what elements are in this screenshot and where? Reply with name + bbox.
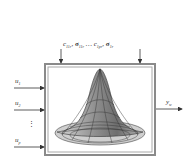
input-label-p: up (15, 137, 21, 145)
input-ellipsis: ⋮ (28, 121, 35, 128)
parameters-label: c11r, σ11r … c1pr, σ1r (63, 41, 113, 49)
diagram-canvas (0, 0, 196, 168)
output-label: yw (166, 99, 172, 107)
input-label-1: u1 (15, 78, 21, 86)
input-label-2: u2 (15, 100, 21, 108)
